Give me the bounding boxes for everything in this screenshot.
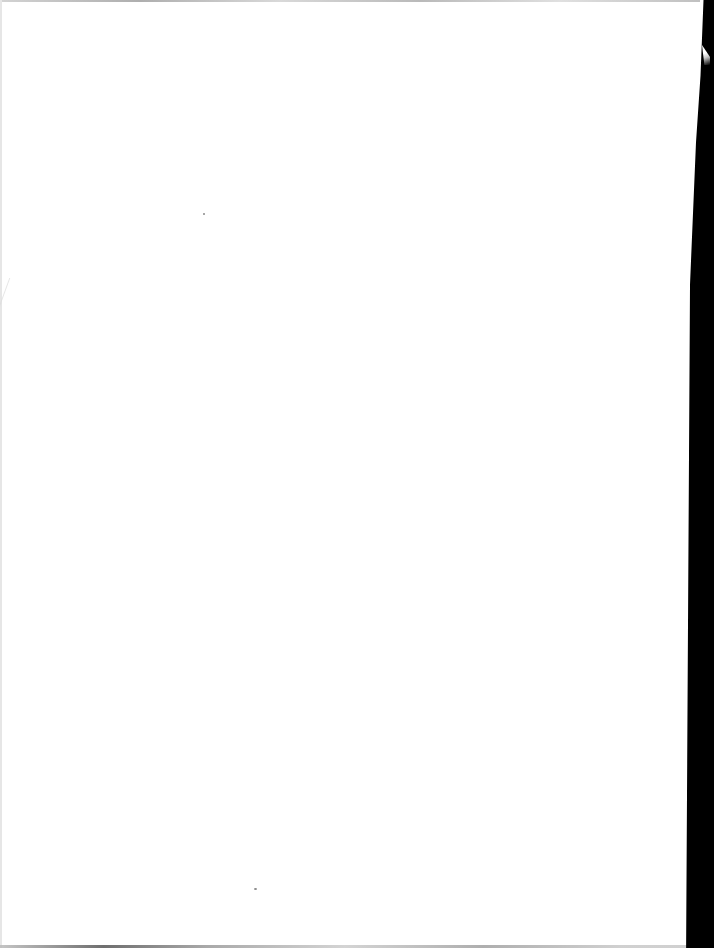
blank-page [0, 0, 714, 948]
left-paper-edge [0, 0, 2, 948]
dust-speck [254, 888, 257, 890]
dust-speck [203, 213, 205, 215]
scanned-document [0, 0, 714, 948]
top-paper-edge [0, 0, 700, 2]
